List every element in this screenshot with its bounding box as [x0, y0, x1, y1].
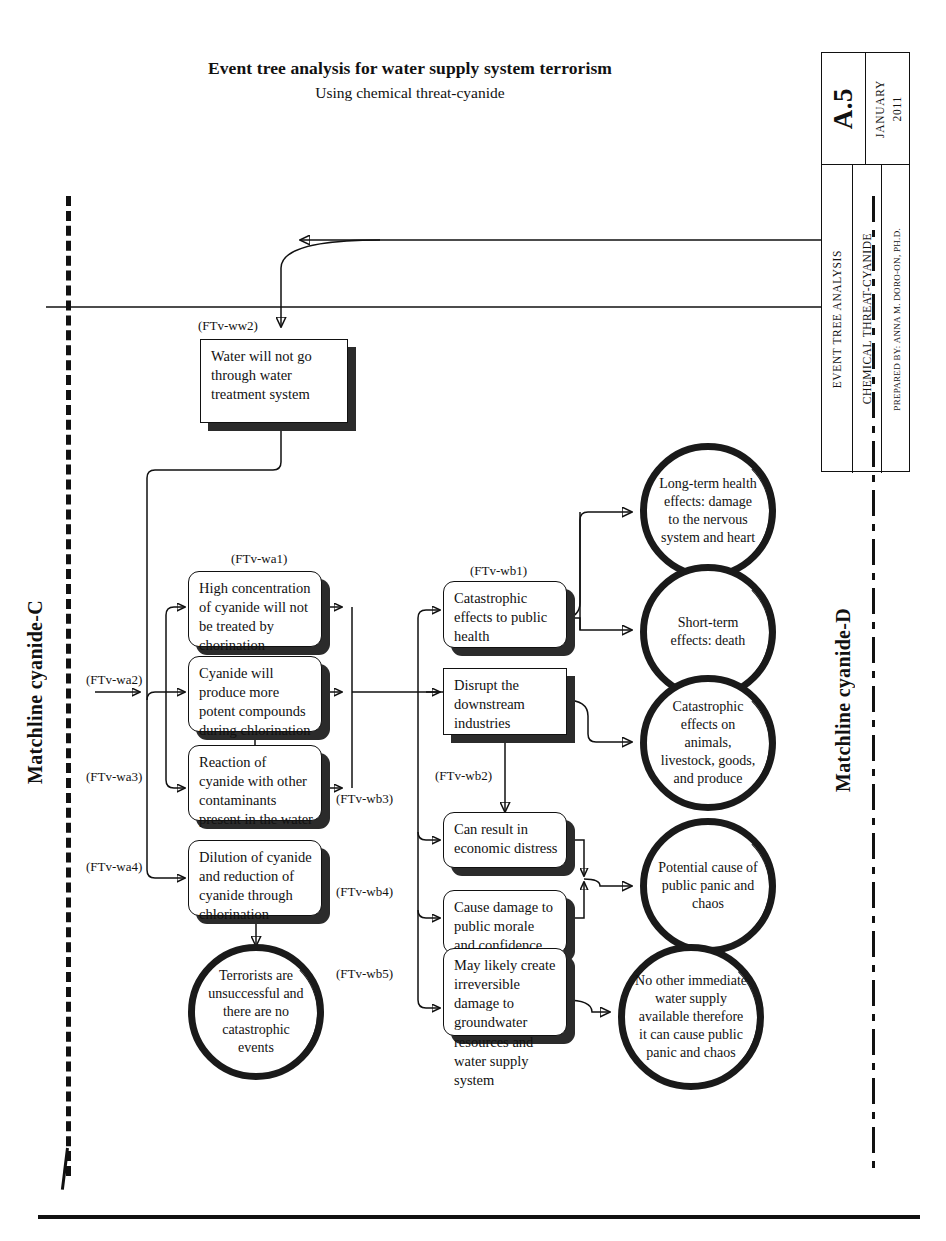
node-wb1[interactable]: Catastrophic effects to public health	[443, 581, 567, 648]
tag-wb2: (FTv-wb2)	[435, 768, 492, 784]
tag-wa4: (FTv-wa4)	[86, 859, 142, 875]
outcome-circle-panic[interactable]: Potential cause of public panic and chao…	[640, 818, 776, 954]
node-wb3[interactable]: Can result in economic distress	[443, 812, 567, 868]
tag-wb3: (FTv-wb3)	[336, 791, 393, 807]
tag-wb1: (FTv-wb1)	[470, 563, 527, 579]
node-wa3[interactable]: Reaction of cyanide with other contamina…	[188, 745, 322, 821]
node-ww2[interactable]: Water will not go through water treatmen…	[200, 339, 348, 423]
outcome-circle-long-term[interactable]: Long-term health effects: damage to the …	[640, 443, 776, 579]
outcome-circle-terrorists-label: Terrorists are unsuccessful and there ar…	[195, 967, 317, 1057]
node-wa2[interactable]: Cyanide will produce more potent compoun…	[188, 656, 322, 732]
diagram-page: Event tree analysis for water supply sys…	[0, 0, 946, 1241]
outcome-circle-no-supply-label: No other immediate water supply availabl…	[625, 972, 757, 1062]
node-wb4[interactable]: Cause damage to public morale and confid…	[443, 890, 567, 954]
node-wa4[interactable]: Dilution of cyanide and reduction of cya…	[188, 840, 322, 916]
tag-wa1: (FTv-wa1)	[231, 551, 287, 567]
node-wb5[interactable]: May likely create irreversible damage to…	[443, 948, 567, 1036]
outcome-circle-short-term-label: Short-term effects: death	[647, 614, 769, 650]
node-wa1[interactable]: High concentration of cyanide will not b…	[188, 571, 322, 647]
tag-wa2: (FTv-wa2)	[86, 672, 142, 688]
outcome-circle-long-term-label: Long-term health effects: damage to the …	[647, 475, 769, 547]
outcome-circle-animals[interactable]: Catastrophic effects on animals, livesto…	[640, 675, 776, 811]
outcome-circle-animals-label: Catastrophic effects on animals, livesto…	[647, 698, 769, 788]
outcome-circle-terrorists[interactable]: Terrorists are unsuccessful and there ar…	[188, 944, 324, 1080]
node-wb2[interactable]: Disrupt the downstream industries	[443, 668, 567, 735]
tag-wb5: (FTv-wb5)	[336, 966, 393, 982]
outcome-circle-panic-label: Potential cause of public panic and chao…	[647, 859, 769, 913]
tag-ww2: (FTv-ww2)	[198, 318, 258, 334]
tag-wa3: (FTv-wa3)	[86, 769, 142, 785]
outcome-circle-no-supply[interactable]: No other immediate water supply availabl…	[618, 944, 764, 1090]
tag-wb4: (FTv-wb4)	[336, 884, 393, 900]
